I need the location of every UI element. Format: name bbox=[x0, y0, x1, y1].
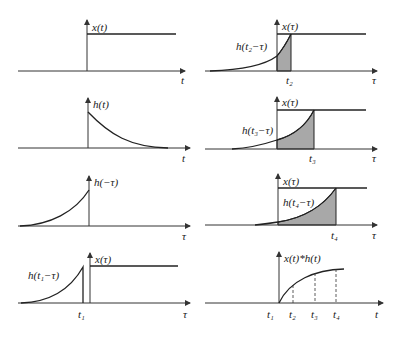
panel-x-t: x(t) t bbox=[18, 20, 185, 86]
panel-h-t3-minus-tau: x(τ) h(t₃−τ) t₃ τ bbox=[205, 96, 377, 164]
panel-h-t1-minus-tau: x(τ) h(t₁−τ) t₁ τ bbox=[18, 253, 190, 320]
panel-h-t: h(t) t bbox=[18, 98, 190, 164]
curve-label: h(t₄−τ) bbox=[283, 196, 314, 209]
tick-t1: t₁ bbox=[78, 308, 85, 320]
tick-t2: t₂ bbox=[289, 308, 296, 320]
tick-t4: t₄ bbox=[331, 229, 338, 241]
xlabel: τ bbox=[372, 74, 377, 86]
xlabel: τ bbox=[372, 229, 377, 241]
panel-h-t4-minus-tau: x(τ) h(t₄−τ) t₄ τ bbox=[205, 174, 377, 241]
xlabel: τ bbox=[182, 230, 187, 242]
tick-t4: t₄ bbox=[333, 308, 340, 320]
panel-convolution-result: x(t)*h(t) t₁ t₂ t₃ t₄ t bbox=[205, 252, 383, 320]
curve-label: h(t₃−τ) bbox=[242, 124, 273, 137]
ylabel: x(τ) bbox=[94, 253, 111, 266]
tick-t1: t₁ bbox=[267, 308, 274, 320]
curve-label: h(t₁−τ) bbox=[28, 269, 59, 282]
convolution-diagram: x(t) t h(t) t h(−τ) τ x(τ) h(t₁−τ) t₁ τ … bbox=[0, 0, 397, 338]
tick-t3: t₃ bbox=[311, 308, 318, 320]
xlabel: t bbox=[375, 308, 379, 320]
curve-label: h(t₂−τ) bbox=[236, 40, 267, 53]
panel-h-neg-tau: h(−τ) τ bbox=[18, 176, 190, 242]
ylabel: x(t)*h(t) bbox=[283, 252, 321, 265]
ylabel: h(−τ) bbox=[94, 176, 119, 189]
ylabel: x(τ) bbox=[281, 96, 298, 109]
xlabel: τ bbox=[183, 308, 188, 320]
xlabel: τ bbox=[372, 152, 377, 164]
xlabel: t bbox=[181, 74, 185, 86]
tick-t2: t₂ bbox=[286, 74, 293, 86]
panel-h-t2-minus-tau: x(τ) h(t₂−τ) t₂ τ bbox=[205, 20, 377, 86]
ylabel: x(t) bbox=[91, 21, 108, 34]
ylabel: x(τ) bbox=[281, 20, 298, 33]
tick-t3: t₃ bbox=[309, 152, 316, 164]
ylabel: x(τ) bbox=[282, 175, 299, 188]
xlabel: t bbox=[182, 152, 186, 164]
ylabel: h(t) bbox=[93, 98, 109, 111]
